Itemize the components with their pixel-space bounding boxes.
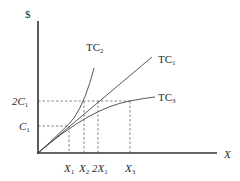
x-axis-label: X — [223, 148, 232, 160]
curve-tc2 — [38, 68, 94, 153]
y-tick-2c1: 2C1 — [12, 95, 29, 109]
y-tick-c1: C1 — [19, 120, 30, 134]
x-tick-x3: X3 — [124, 162, 136, 176]
label-tc1: TC1 — [158, 53, 176, 67]
curve-tc3 — [38, 97, 155, 153]
x-tick-x1: X1 — [63, 162, 75, 176]
x-tick-2x1: 2X1 — [92, 162, 108, 176]
cost-diagram: $ X 2C1 C1 X1 X2 2X1 X3 TC2 TC1 TC3 — [0, 0, 240, 181]
y-axis-label: $ — [25, 8, 31, 20]
label-tc2: TC2 — [86, 41, 104, 55]
x-tick-x2: X2 — [78, 162, 90, 176]
label-tc3: TC3 — [158, 91, 176, 105]
